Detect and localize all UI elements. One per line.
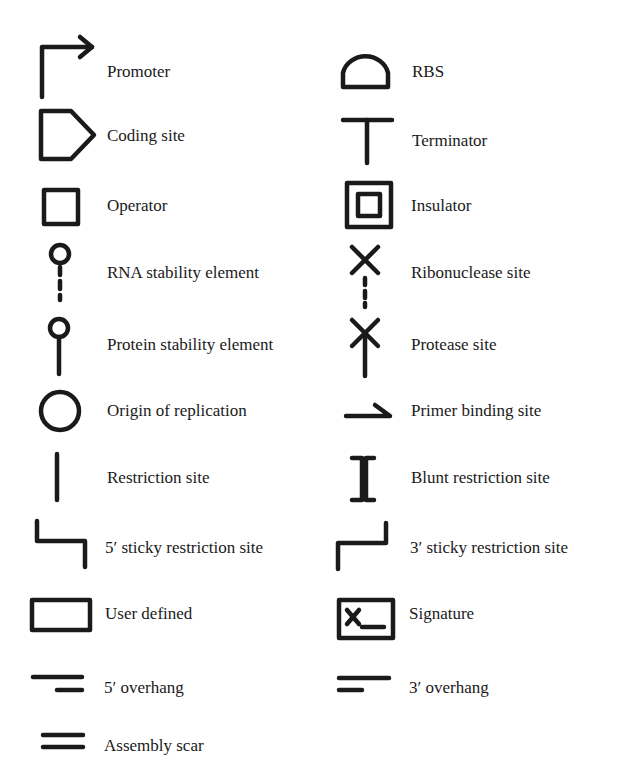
legend-label: Operator xyxy=(107,196,167,216)
legend-label: Blunt restriction site xyxy=(411,468,550,488)
insulator-icon xyxy=(345,181,395,231)
legend-label: 5′ overhang xyxy=(104,678,184,698)
legend-label: Origin of replication xyxy=(107,401,247,421)
legend-label: 5′ sticky restriction site xyxy=(105,538,263,558)
blunt-restriction-site-icon xyxy=(350,455,380,505)
rna-stability-element-icon xyxy=(49,243,73,303)
assembly-scar-icon xyxy=(40,731,88,755)
five-prime-sticky-restriction-site-icon xyxy=(33,519,93,571)
legend-label: User defined xyxy=(105,604,192,624)
primer-binding-site-icon xyxy=(343,402,395,422)
legend-label: Promoter xyxy=(107,62,170,82)
terminator-icon xyxy=(340,117,396,167)
three-prime-sticky-restriction-site-icon xyxy=(334,521,392,573)
legend-label: RNA stability element xyxy=(107,263,259,283)
legend-label: RBS xyxy=(412,62,444,82)
protein-stability-element-icon xyxy=(48,317,72,377)
coding-site-icon xyxy=(39,109,99,163)
legend-label: Assembly scar xyxy=(104,736,204,756)
legend-label: Signature xyxy=(409,604,474,624)
ribonuclease-site-icon xyxy=(350,245,384,309)
three-prime-overhang-icon xyxy=(336,674,396,698)
legend-label: 3′ overhang xyxy=(409,678,489,698)
protease-site-icon xyxy=(350,318,384,380)
legend-label: Terminator xyxy=(412,131,487,151)
origin-of-replication-icon xyxy=(38,389,84,435)
operator-icon xyxy=(42,188,80,226)
signature-icon xyxy=(336,597,398,641)
legend-label: 3′ sticky restriction site xyxy=(410,538,568,558)
legend-label: Coding site xyxy=(107,126,185,146)
legend-label: Protease site xyxy=(411,335,496,355)
restriction-site-icon xyxy=(53,452,63,504)
five-prime-overhang-icon xyxy=(30,672,88,698)
legend-label: Protein stability element xyxy=(107,335,273,355)
rbs-icon xyxy=(340,49,392,91)
legend-label: Primer binding site xyxy=(411,401,541,421)
user-defined-icon xyxy=(29,597,95,635)
promoter-icon xyxy=(40,37,100,99)
legend-label: Ribonuclease site xyxy=(411,263,530,283)
legend-label: Insulator xyxy=(411,196,471,216)
legend-label: Restriction site xyxy=(107,468,209,488)
